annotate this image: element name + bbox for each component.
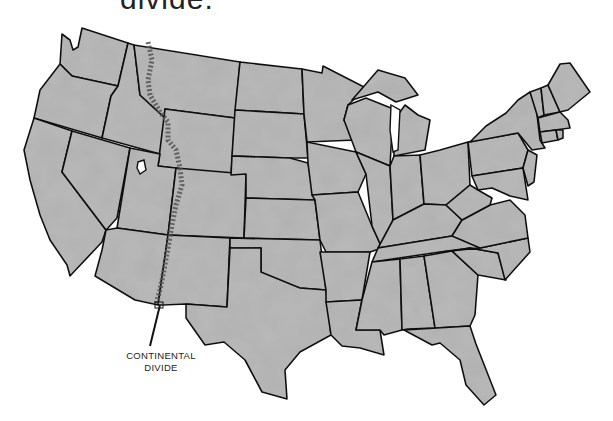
continental-divide-label: CONTINENTAL DIVIDE <box>106 350 216 374</box>
state-rhode-island <box>556 130 563 140</box>
state-south-dakota <box>232 110 308 158</box>
label-leader-line <box>150 305 160 346</box>
state-new-mexico <box>158 235 230 307</box>
label-line-1: CONTINENTAL <box>106 350 216 362</box>
state-wyoming <box>158 109 235 175</box>
state-florida <box>404 326 496 405</box>
label-line-2: DIVIDE <box>106 362 216 374</box>
lake-michigan <box>390 105 400 152</box>
state-north-dakota <box>235 62 304 114</box>
state-kansas <box>244 198 320 240</box>
state-connecticut <box>540 130 558 143</box>
state-colorado <box>168 168 246 238</box>
state-arkansas <box>320 252 370 302</box>
us-map <box>0 0 613 421</box>
